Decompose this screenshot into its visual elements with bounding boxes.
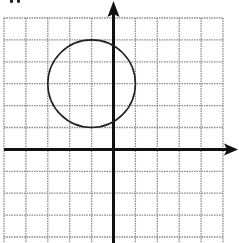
coordinate-grid: [0, 0, 239, 243]
clipped-label-mark-right: [17, 0, 20, 3]
coordinate-plane-figure: [0, 0, 239, 243]
clipped-label-mark-left: [10, 0, 13, 3]
